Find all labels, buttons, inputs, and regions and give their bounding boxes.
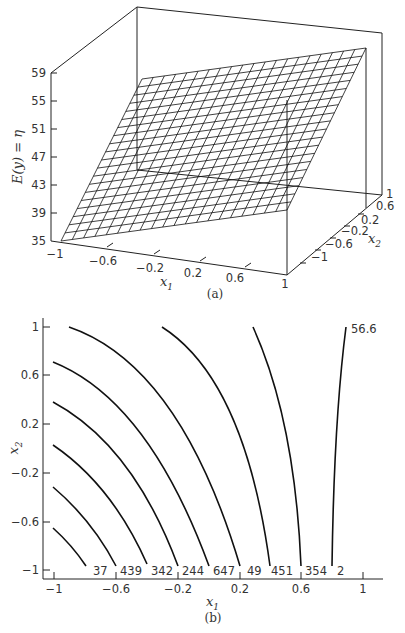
x1-tick-label: −1	[47, 247, 64, 261]
x1-tick-label: 0.6	[226, 271, 244, 285]
x2-axis-title: x2	[368, 231, 381, 249]
x2-tick-label: −0.6	[325, 237, 353, 251]
contour-label: 342	[151, 564, 173, 578]
x2-tick-label: −1	[311, 250, 328, 264]
y-tick-label: −1	[22, 563, 39, 577]
surface-wireframe	[61, 48, 366, 241]
x1-axis-title: x1	[160, 274, 173, 292]
y-axis-title: x2	[6, 441, 24, 454]
y-tick-label: −0.2	[11, 466, 39, 480]
z-tick-label: 51	[31, 122, 46, 136]
x1-tick-label: −0.2	[136, 261, 164, 275]
contour-label: 439	[120, 564, 142, 578]
x1-tick-label: 1	[281, 277, 288, 291]
x-tick-label: 0.2	[231, 582, 249, 596]
surface-plot-panel: 59 55 51 47 43 39 35 E(y) = η −1 −0.6 −0…	[10, 7, 394, 301]
contour-label-top: 56.6	[351, 322, 377, 336]
contour-label: 2	[337, 564, 344, 578]
x2-tick-label: 0.6	[376, 199, 394, 213]
x-tick-label: −1	[46, 582, 63, 596]
x2-axis-ticks: 1 0.6 0.2 −0.2 −0.6 −1	[300, 187, 394, 264]
z-tick-label: 55	[31, 94, 46, 108]
contour-label: 49	[247, 564, 262, 578]
z-tick-label: 47	[31, 150, 46, 164]
panel-label-a: (a)	[207, 287, 224, 301]
plot-box-frame	[51, 7, 382, 275]
z-tick-label: 39	[31, 206, 46, 220]
contour-label: 451	[271, 564, 293, 578]
x-tick-label: 1	[359, 582, 366, 596]
x2-tick-label: −0.2	[341, 224, 369, 238]
y-tick-label: 0.2	[21, 417, 39, 431]
x-tick-label: −0.6	[102, 582, 130, 596]
z-tick-label: 43	[31, 178, 46, 192]
contour-label: 244	[182, 564, 204, 578]
contour-plot-panel: 1 0.6 0.2 −0.2 −0.6 −1 x2 −1 −0.6 −0.2 0…	[6, 318, 383, 625]
x-axis-title: x1	[206, 594, 219, 612]
z-tick-label: 59	[31, 66, 46, 80]
z-tick-label: 35	[31, 234, 46, 248]
y-tick-label: 0.6	[21, 368, 39, 382]
y-tick-label: −0.6	[11, 515, 39, 529]
z-axis-ticks: 59 55 51 47 43 39 35	[31, 66, 57, 248]
x-tick-label: −0.2	[164, 582, 192, 596]
y-tick-label: 1	[32, 320, 39, 334]
contour-label: 647	[213, 564, 235, 578]
contour-label: 354	[305, 564, 327, 578]
panel-label-b: (b)	[204, 611, 221, 625]
figure: 59 55 51 47 43 39 35 E(y) = η −1 −0.6 −0…	[0, 0, 405, 633]
x1-tick-label: −0.6	[89, 254, 117, 268]
x1-tick-label: 0.2	[184, 266, 202, 280]
z-axis-title: E(y) = η	[10, 130, 25, 185]
contour-lines	[53, 327, 346, 566]
contour-label: 37	[93, 564, 108, 578]
x-tick-label: 0.6	[292, 582, 310, 596]
